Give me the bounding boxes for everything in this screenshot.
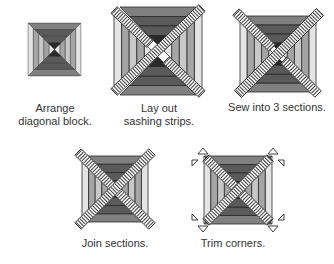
step-5-trim-corners	[190, 146, 286, 234]
step-4-join-sections	[76, 148, 154, 230]
joined-block-illustration	[76, 148, 154, 230]
step-1-arrange-block	[27, 22, 82, 77]
step-3-sew-sections	[232, 8, 327, 98]
three-sections-illustration	[232, 8, 327, 98]
step-3-caption: Sew into 3 sections.	[220, 101, 334, 114]
step-5-caption: Trim corners.	[178, 237, 288, 250]
step-1-caption: Arrange diagonal block.	[0, 102, 110, 128]
trimmed-block-illustration	[190, 146, 286, 234]
step-2-caption: Lay out sashing strips.	[104, 102, 214, 128]
exploded-block-with-sashing-illustration	[108, 4, 208, 99]
step-4-caption: Join sections.	[60, 237, 170, 250]
step-2-lay-out-sashing	[108, 4, 208, 99]
diagonal-block-illustration	[27, 22, 82, 77]
